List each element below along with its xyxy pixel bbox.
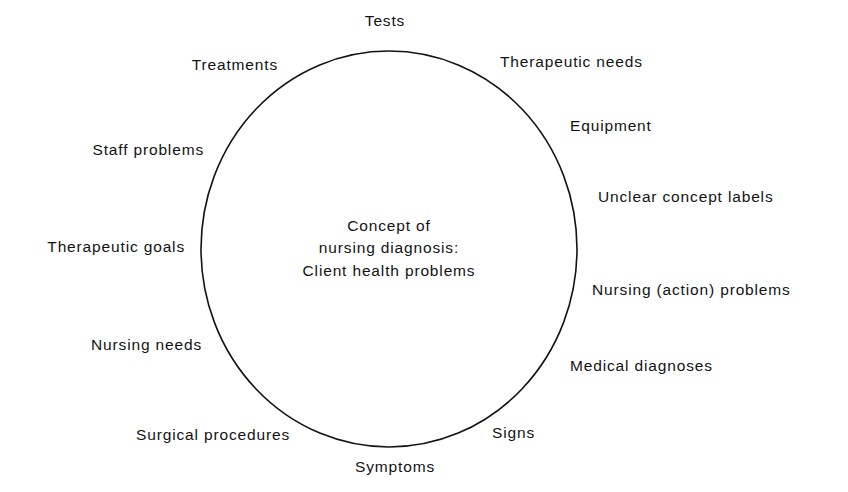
center-line-3: Client health problems [303,260,476,282]
label-therapeutic-needs: Therapeutic needs [500,53,643,71]
label-treatments: Treatments [192,56,278,74]
center-line-1: Concept of [303,215,476,237]
label-tests: Tests [365,12,405,30]
label-nursing-action-problems: Nursing (action) problems [592,281,791,299]
label-unclear-concept-labels: Unclear concept labels [598,188,774,206]
center-line-2: nursing diagnosis: [303,238,476,260]
label-surgical-procedures: Surgical procedures [136,426,290,444]
label-staff-problems: Staff problems [92,141,204,159]
label-therapeutic-goals: Therapeutic goals [47,238,185,256]
label-medical-diagnoses: Medical diagnoses [570,357,713,375]
center-concept-text: Concept of nursing diagnosis: Client hea… [303,215,476,282]
diagram-canvas: Concept of nursing diagnosis: Client hea… [0,0,848,492]
label-nursing-needs: Nursing needs [91,336,202,354]
label-equipment: Equipment [570,117,652,135]
label-signs: Signs [492,424,535,442]
label-symptoms: Symptoms [355,458,435,476]
